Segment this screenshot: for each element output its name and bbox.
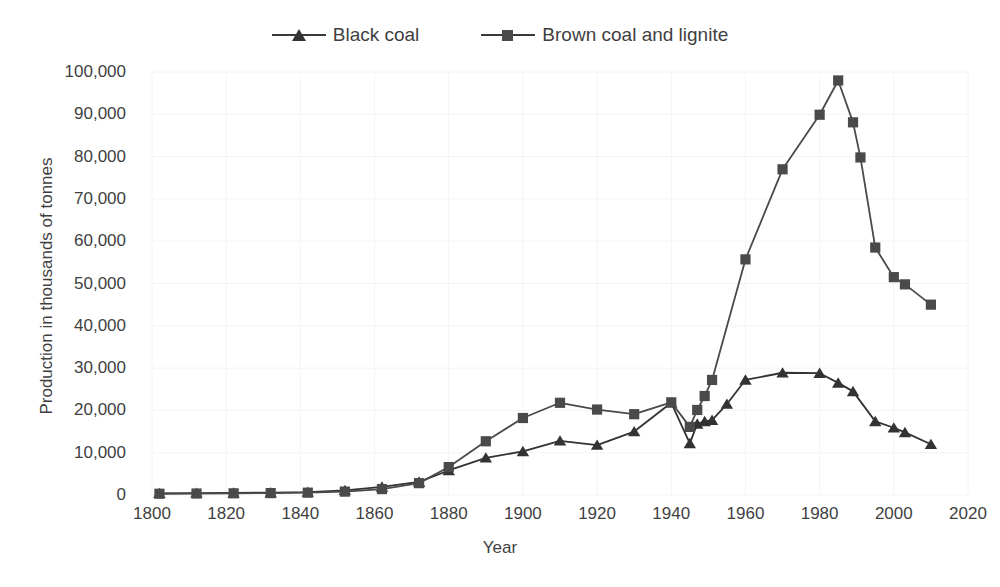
data-point-marker: [815, 110, 825, 120]
data-point-marker: [833, 75, 843, 85]
gridlines: [152, 72, 968, 495]
data-point-marker: [707, 375, 717, 385]
data-point-marker: [869, 416, 881, 426]
data-point-marker: [848, 117, 858, 127]
data-point-marker: [889, 272, 899, 282]
data-point-marker: [481, 436, 491, 446]
plot-area: [0, 0, 1000, 587]
data-point-marker: [721, 398, 733, 408]
data-point-marker: [900, 279, 910, 289]
data-point-marker: [870, 242, 880, 252]
data-point-marker: [555, 398, 565, 408]
data-point-marker: [444, 462, 454, 472]
data-point-marker: [266, 488, 276, 498]
data-point-marker: [414, 478, 424, 488]
data-point-marker: [926, 300, 936, 310]
data-point-marker: [855, 152, 865, 162]
data-point-marker: [899, 427, 911, 437]
data-point-marker: [154, 489, 164, 499]
data-point-marker: [925, 439, 937, 449]
data-point-marker: [554, 435, 566, 445]
coal-production-line-chart: Black coal Brown coal and lignite Produc…: [0, 0, 1000, 587]
data-point-marker: [629, 409, 639, 419]
data-point-marker: [229, 488, 239, 498]
data-point-marker: [700, 391, 710, 401]
data-point-marker: [692, 405, 702, 415]
data-point-marker: [592, 404, 602, 414]
data-point-marker: [303, 488, 313, 498]
data-point-marker: [777, 164, 787, 174]
data-point-marker: [377, 484, 387, 494]
data-point-marker: [666, 397, 676, 407]
data-point-marker: [340, 487, 350, 497]
data-point-marker: [847, 386, 859, 396]
x-axis-title: Year: [0, 538, 1000, 558]
plot-svg: [0, 0, 1000, 587]
data-point-marker: [685, 422, 695, 432]
data-point-marker: [684, 438, 696, 448]
data-point-marker: [832, 377, 844, 387]
data-point-marker: [518, 413, 528, 423]
data-point-marker: [191, 488, 201, 498]
data-point-marker: [740, 254, 750, 264]
data-point-marker: [888, 422, 900, 432]
series-brown-coal: [154, 75, 936, 498]
